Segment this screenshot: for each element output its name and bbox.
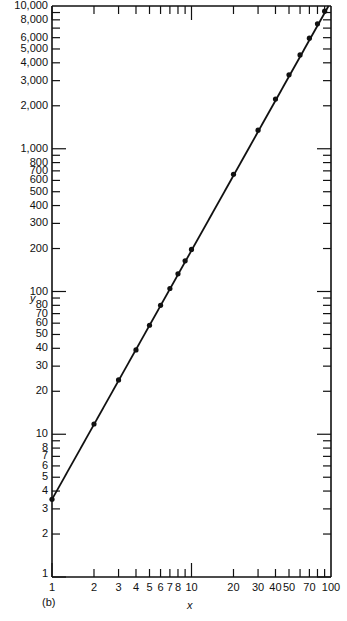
y-tick-label: 500 [2, 186, 48, 197]
data-point [91, 421, 96, 426]
y-tick-label: 8 [2, 442, 48, 453]
data-point [158, 303, 163, 308]
data-point [297, 52, 302, 57]
data-point [147, 323, 152, 328]
data-point [286, 72, 291, 77]
x-tick-label: 100 [319, 582, 343, 593]
y-tick-label: 5 [2, 471, 48, 482]
y-tick-label: 3,000 [2, 75, 48, 86]
data-point [49, 497, 54, 502]
y-tick-label: 300 [2, 217, 48, 228]
y-tick-label: 1,000 [2, 143, 48, 154]
y-axis-label: y [30, 293, 36, 304]
data-point [315, 21, 320, 26]
y-tick-label: 5,000 [2, 43, 48, 54]
y-tick-label: 8,000 [2, 14, 48, 25]
data-point [133, 347, 138, 352]
y-tick-label: 6 [2, 460, 48, 471]
y-tick-label: 80 [2, 299, 48, 310]
data-point [189, 247, 194, 252]
y-tick-label: 400 [2, 200, 48, 211]
y-tick-label: 10,000 [2, 0, 48, 11]
y-tick-label: 40 [2, 342, 48, 353]
y-tick-label: 10 [2, 428, 48, 439]
y-tick-label: 20 [2, 385, 48, 396]
y-tick-label: 4,000 [2, 57, 48, 68]
data-point [307, 36, 312, 41]
y-tick-label: 800 [2, 157, 48, 168]
log-log-chart [0, 0, 347, 621]
plot-frame [52, 6, 331, 577]
x-axis-label: x [187, 600, 193, 611]
data-point [231, 172, 236, 177]
data-point [322, 9, 327, 14]
data-point [183, 258, 188, 263]
y-tick-label: 1 [2, 568, 48, 579]
y-tick-label: 6,000 [2, 32, 48, 43]
x-tick-label: 20 [221, 582, 245, 593]
panel-label: (b) [42, 597, 55, 608]
data-point [255, 128, 260, 133]
y-tick-label: 600 [2, 174, 48, 185]
data-point [167, 286, 172, 291]
y-tick-label: 2,000 [2, 100, 48, 111]
y-tick-label: 60 [2, 317, 48, 328]
axis-ticks [52, 6, 331, 577]
y-tick-label: 30 [2, 360, 48, 371]
y-tick-label: 2 [2, 528, 48, 539]
x-tick-label: 10 [180, 582, 204, 593]
y-tick-label: 100 [2, 286, 48, 297]
y-tick-label: 50 [2, 328, 48, 339]
y-tick-label: 3 [2, 503, 48, 514]
data-point [273, 96, 278, 101]
x-tick-label: 1 [40, 582, 64, 593]
data-point [175, 271, 180, 276]
x-tick-label: 2 [82, 582, 106, 593]
data-point [116, 377, 121, 382]
y-tick-label: 200 [2, 243, 48, 254]
y-tick-label: 4 [2, 485, 48, 496]
x-tick-label: 70 [297, 582, 321, 593]
